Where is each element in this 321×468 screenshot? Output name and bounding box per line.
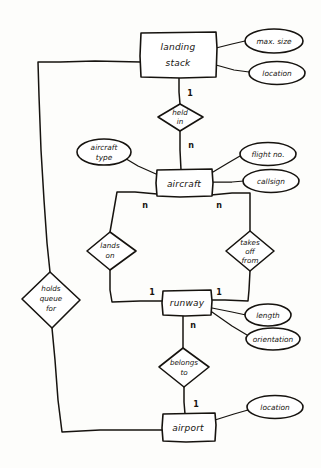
er-diagram-canvas: landing stack aircraft runway airport he… — [0, 0, 321, 468]
edge-takesofffrom-runway — [211, 271, 250, 301]
flight-no-label: flight no. — [251, 150, 284, 159]
edge-aircraft-flightno — [213, 156, 240, 172]
cardinality-aircraft-takesoff: n — [216, 201, 222, 210]
relationship-lands-on[interactable]: lands on — [87, 232, 136, 270]
edge-belongsto-airport — [184, 387, 185, 414]
cardinality-takesoff-runway: 1 — [216, 288, 222, 297]
er-diagram-svg: landing stack aircraft runway airport he… — [0, 0, 321, 468]
entity-aircraft[interactable]: aircraft — [156, 169, 213, 197]
attribute-flight-no[interactable]: flight no. — [240, 143, 296, 166]
edge-aircraft-landson — [110, 192, 157, 232]
belongs-to-label-line1: belongs — [170, 358, 198, 367]
takes-off-from-label-line2: off — [245, 247, 255, 256]
relationship-belongs-to[interactable]: belongs to — [159, 348, 209, 387]
lands-on-label-line2: on — [106, 251, 115, 260]
cardinality-runway-belongsto: n — [190, 321, 196, 330]
runway-label: runway — [170, 298, 205, 308]
edge-landingstack-maxsize — [216, 41, 245, 48]
aircraft-label: aircraft — [167, 179, 201, 189]
length-label: length — [256, 311, 280, 320]
cardinality-belongsto-airport: 1 — [193, 400, 199, 409]
edge-landingstack-heldin — [179, 78, 180, 104]
aircraft-type-label-line2: type — [96, 153, 113, 162]
held-in-label-line1: held — [172, 108, 188, 117]
holds-queue-for-label-line3: for — [46, 304, 57, 313]
edge-landingstack-holdsqueue — [38, 61, 141, 272]
attribute-max-size[interactable]: max. size — [245, 29, 303, 53]
relationship-takes-off-from[interactable]: takes off from — [226, 231, 274, 271]
attribute-location-airport[interactable]: location — [247, 396, 303, 419]
edge-aircraft-callsign — [213, 181, 244, 182]
edge-aircraft-aircrafttype — [123, 157, 156, 174]
attribute-callsign[interactable]: callsign — [243, 170, 299, 193]
edge-landson-runway — [110, 270, 163, 302]
aircraft-type-label-line1: aircraft — [91, 143, 119, 152]
landing-stack-box — [140, 32, 217, 78]
belongs-to-label-line2: to — [180, 368, 188, 377]
takes-off-from-label-line3: from — [242, 256, 259, 265]
attribute-length[interactable]: length — [245, 304, 291, 326]
airport-label: airport — [172, 423, 204, 433]
landing-stack-label-line2: stack — [166, 58, 191, 68]
max-size-label: max. size — [256, 37, 292, 46]
attribute-location-landing-stack[interactable]: location — [249, 62, 305, 85]
holds-queue-for-label-line2: queue — [40, 294, 63, 303]
holds-queue-for-label-line1: holds — [41, 284, 61, 293]
location-stack-label: location — [262, 69, 292, 78]
edge-heldin-aircraft — [180, 131, 181, 170]
relationship-holds-queue-for[interactable]: holds queue for — [22, 272, 80, 328]
edge-holdsqueue-airport — [52, 328, 163, 432]
relationship-held-in[interactable]: held in — [158, 104, 203, 131]
held-in-label-line2: in — [177, 117, 184, 126]
attribute-aircraft-type[interactable]: aircraft type — [77, 139, 131, 165]
edge-aircraft-takesofffrom — [211, 193, 250, 231]
entity-runway[interactable]: runway — [162, 290, 212, 316]
edge-runway-orientation — [212, 312, 247, 335]
orientation-label: orientation — [253, 335, 294, 344]
cardinality-stack-heldin: 1 — [187, 89, 193, 98]
location-airport-label: location — [260, 403, 290, 412]
edge-airport-location — [215, 410, 248, 420]
edge-landingstack-location — [216, 65, 249, 72]
takes-off-from-label-line1: takes — [240, 238, 260, 247]
landing-stack-label-line1: landing — [161, 42, 196, 52]
entity-landing-stack[interactable]: landing stack — [140, 32, 217, 78]
attribute-orientation[interactable]: orientation — [246, 328, 300, 350]
lands-on-label-line1: lands — [100, 241, 120, 250]
cardinality-landson-runway: 1 — [149, 288, 155, 297]
entity-airport[interactable]: airport — [162, 413, 216, 442]
cardinality-aircraft-landson: n — [142, 201, 148, 210]
cardinality-heldin-aircraft: n — [188, 141, 194, 150]
edge-runway-length — [212, 308, 246, 315]
callsign-label: callsign — [257, 177, 285, 186]
